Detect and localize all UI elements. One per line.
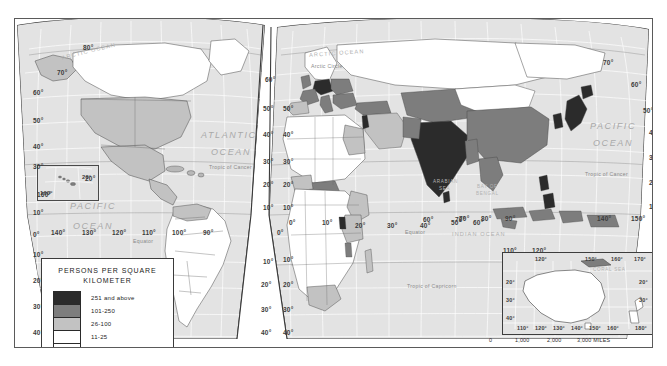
legend-swatch [53, 343, 81, 348]
legend-swatch [53, 317, 81, 330]
legend-swatch [53, 330, 81, 343]
legend-label: 0-10 [91, 347, 104, 349]
map-plate: 160°20° [14, 18, 653, 348]
map-legend: PERSONS PER SQUARE KILOMETER 251 and abo… [41, 258, 174, 348]
legend-row: 0-10 [53, 343, 173, 348]
legend-swatch [53, 291, 81, 304]
legend-label: 101-250 [91, 308, 115, 314]
legend-title-line1: PERSONS PER SQUARE [58, 267, 156, 274]
scale-ruler [491, 346, 611, 348]
legend-row: 251 and above [53, 291, 173, 304]
scale-bar: 01,0002,0003,000 MILES 01,0002,0003,000 … [485, 337, 653, 348]
legend-label: 11-25 [91, 334, 107, 340]
legend-row: 11-25 [53, 330, 173, 343]
hawaii-inset-box: 160°20° [37, 165, 99, 201]
australia-inset-map [503, 253, 653, 334]
legend-row: 101-250 [53, 304, 173, 317]
australia-inset-box: 120°150°160°170°110°120°130°140°150°160°… [502, 252, 653, 335]
legend-title-line2: KILOMETER [83, 277, 132, 284]
legend-swatch [53, 304, 81, 317]
scale-miles-tick: 1,000 [515, 337, 530, 343]
legend-label: 251 and above [91, 295, 135, 301]
legend-row: 26-100 [53, 317, 173, 330]
legend-label: 26-100 [91, 321, 111, 327]
legend-title: PERSONS PER SQUARE KILOMETER [42, 266, 173, 286]
map-screenshot: 160°20° [0, 0, 667, 366]
scale-miles-tick: 2,000 [547, 337, 562, 343]
scale-miles-tick: 0 [489, 337, 492, 343]
legend-class-list: 251 and above101-25026-10011-250-10 [53, 291, 173, 348]
hawaii-islands [38, 166, 98, 200]
scale-miles-tick: 3,000 MILES [577, 337, 610, 343]
